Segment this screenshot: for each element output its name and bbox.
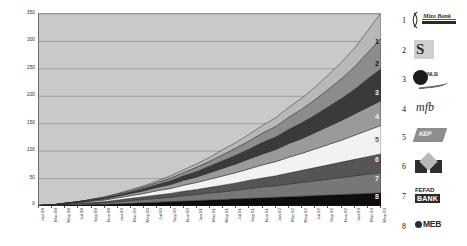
y-tick-250: 250: [27, 65, 35, 70]
x-axis-label: May 00: [145, 208, 150, 222]
y-tick-150: 150: [27, 120, 35, 125]
meb-logo-dot: [415, 221, 422, 228]
legend-item-5[interactable]: 5 KEP: [392, 123, 467, 151]
area-series-svg: [39, 14, 381, 206]
fefad-bank-logo-icon: FEFAD BANK: [410, 183, 464, 209]
meb-logo-icon: MEB: [410, 213, 464, 239]
band-label-1: 1: [375, 38, 379, 45]
x-axis-label: Sep 02: [329, 208, 334, 222]
x-axis-label: Nov 00: [185, 208, 190, 222]
x-axis: Jan 99Mar 99May 99Jul 99Sep 99Nov 99Jan …: [38, 206, 380, 246]
y-tick-100: 100: [27, 147, 35, 152]
legend-item-6[interactable]: 6: [392, 152, 467, 180]
legend-item-4[interactable]: 4 mfb: [392, 95, 467, 123]
dot-swoosh-wordmark: NLB: [427, 71, 438, 77]
legend-item-7[interactable]: 7 FEFAD BANK: [392, 182, 467, 210]
legend-number-3: 3: [392, 75, 410, 84]
stacked-area-chart: 350 300 250 200 150 100 50 0 1 2 3 4 5 6…: [0, 0, 392, 246]
y-tick-50: 50: [30, 175, 35, 180]
house-logo-icon: [410, 153, 464, 179]
bracket-icon: [410, 10, 422, 30]
x-axis-label: Sep 00: [172, 208, 177, 222]
x-axis-label: Jul 01: [237, 208, 242, 220]
legend-item-3[interactable]: 3 NLB: [392, 65, 467, 93]
x-tick: [196, 206, 197, 208]
stacked-areas: [39, 14, 381, 206]
x-tick: [130, 206, 131, 208]
x-axis-label: Mar 99: [53, 208, 58, 222]
legend-item-1[interactable]: 1 Mizo Bank: [392, 6, 467, 34]
x-tick: [275, 206, 276, 208]
spiral-logo-icon: S: [410, 37, 464, 63]
y-tick-350: 350: [27, 10, 35, 15]
band-label-4: 4: [375, 113, 379, 120]
band-label-7: 7: [375, 175, 379, 182]
mizo-bank-logo-icon: Mizo Bank: [410, 7, 464, 33]
x-tick: [301, 206, 302, 208]
band-label-5: 5: [375, 136, 379, 143]
legend-number-7: 7: [392, 192, 410, 201]
fefad-wordmark: FEFAD: [415, 186, 434, 193]
legend-number-4: 4: [392, 105, 410, 114]
plot-area: 1 2 3 4 5 6 7 8: [38, 13, 381, 206]
x-axis-label: Mar 02: [290, 208, 295, 222]
x-axis-label: Sep 99: [93, 208, 98, 222]
legend-item-8[interactable]: 8 MEB: [392, 212, 467, 240]
x-axis-label: Jul 99: [79, 208, 84, 220]
x-tick: [209, 206, 210, 208]
x-tick: [262, 206, 263, 208]
x-axis-label: Mar 00: [132, 208, 137, 222]
mizo-bank-wordmark: Mizo Bank: [423, 12, 451, 19]
mfb-logo-icon: mfb: [410, 96, 464, 122]
legend-number-5: 5: [392, 133, 410, 142]
x-tick: [183, 206, 184, 208]
mfb-wordmark: mfb: [416, 100, 434, 114]
fefad-bank-box: BANK: [415, 194, 440, 203]
legend-number-6: 6: [392, 162, 410, 171]
chart-screenshot: 350 300 250 200 150 100 50 0 1 2 3 4 5 6…: [0, 0, 467, 246]
legend-number-8: 8: [392, 222, 410, 231]
x-axis-label: Jan 02: [277, 208, 282, 221]
x-tick: [117, 206, 118, 208]
mizo-bank-rule: [422, 21, 456, 24]
slanted-logo-icon: KEP: [410, 124, 464, 150]
legend-number-2: 2: [392, 46, 410, 55]
y-tick-0: 0: [32, 201, 35, 206]
x-axis-label: Nov 01: [264, 208, 269, 222]
x-tick: [354, 206, 355, 208]
band-label-3: 3: [375, 89, 379, 96]
legend-number-1: 1: [392, 16, 410, 25]
x-axis-label: Jan 99: [40, 208, 45, 221]
x-tick: [38, 206, 39, 208]
x-tick: [51, 206, 52, 208]
x-axis-label: Jan 00: [119, 208, 124, 221]
x-tick: [104, 206, 105, 208]
y-tick-200: 200: [27, 92, 35, 97]
mizo-bank-rule-thin: [422, 19, 456, 20]
x-axis-label: Jul 02: [316, 208, 321, 220]
x-axis-label: Mar 01: [211, 208, 216, 222]
slanted-logo-wordmark: KEP: [418, 130, 433, 137]
x-axis-label: May 03: [382, 208, 387, 222]
meb-wordmark: MEB: [423, 219, 441, 229]
x-tick: [367, 206, 368, 208]
x-axis-label: Nov 02: [343, 208, 348, 222]
x-tick: [288, 206, 289, 208]
x-axis-label: Jul 00: [158, 208, 163, 220]
x-axis-label: Mar 03: [369, 208, 374, 222]
spiral-logo-glyph: S: [416, 41, 424, 57]
band-label-8: 8: [375, 193, 379, 200]
x-axis-label: Jan 01: [198, 208, 203, 221]
dot-swoosh-logo-icon: NLB: [410, 66, 464, 92]
x-axis-label: Nov 99: [106, 208, 111, 222]
legend-item-2[interactable]: 2 S: [392, 36, 467, 64]
x-tick: [341, 206, 342, 208]
x-tick: [91, 206, 92, 208]
x-tick: [380, 206, 381, 208]
x-axis-label: May 01: [224, 208, 229, 222]
x-axis-label: May 02: [303, 208, 308, 222]
band-label-6: 6: [375, 156, 379, 163]
x-tick: [222, 206, 223, 208]
x-axis-label: Sep 01: [250, 208, 255, 222]
x-axis-label: May 99: [66, 208, 71, 222]
